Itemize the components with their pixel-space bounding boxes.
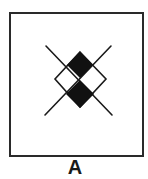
figure-label: A <box>0 157 148 177</box>
filled-diamond-top <box>67 52 93 78</box>
filled-diamond-bottom <box>66 80 94 108</box>
crossed-diamonds-icon <box>0 0 148 179</box>
